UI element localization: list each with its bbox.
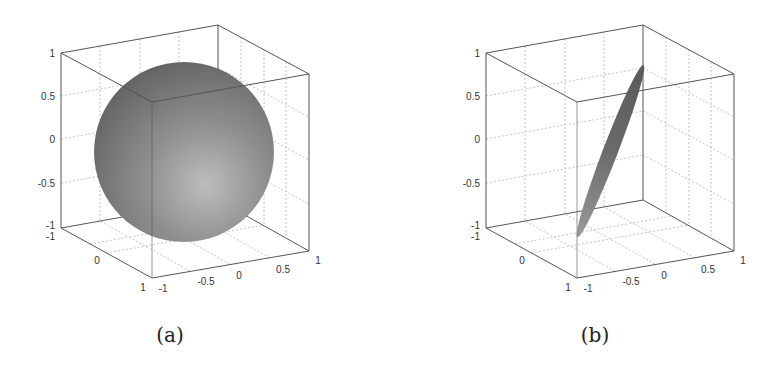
x-tick: 0.5 [701,264,715,275]
y-tick: 0 [94,255,100,266]
x-tick: 0.5 [276,264,290,275]
caption-b: (b) [581,323,609,347]
y-tick: 0 [519,255,525,266]
x-tick: 0 [661,270,667,281]
ellipsoid-surface [571,62,651,239]
z-tick: 1 [474,48,480,59]
y-tick: 1 [565,282,571,293]
y-axis-ticks: -1 0 1 [46,231,146,293]
z-axis-ticks: 1 0.5 0 -0.5 -1 [38,48,56,231]
x-tick: 1 [740,255,746,266]
sphere-surface [94,62,274,242]
z-tick: -1 [471,220,480,231]
y-tick: -1 [471,231,480,242]
z-tick: 0 [49,134,55,145]
x-tick: 0 [236,270,242,281]
figure: 1 0.5 0 -0.5 -1 -1 0 1 -1 -0.5 0 0.5 1 (… [0,0,778,374]
z-axis-ticks: 1 0.5 0 -0.5 -1 [463,48,481,231]
z-tick: 0 [474,134,480,145]
plot-b: 1 0.5 0 -0.5 -1 -1 0 1 -1 -0.5 0 0.5 1 [425,0,778,374]
panel-b: 1 0.5 0 -0.5 -1 -1 0 1 -1 -0.5 0 0.5 1 (… [425,0,778,374]
x-axis-ticks: -1 -0.5 0 0.5 1 [584,255,747,294]
x-tick: -0.5 [622,276,640,287]
x-tick: -1 [584,283,593,294]
z-tick: -0.5 [38,178,56,189]
z-tick: 1 [49,48,55,59]
x-tick: -1 [159,283,168,294]
caption-a: (a) [156,323,184,347]
z-tick: 0.5 [41,91,55,102]
z-tick: -1 [46,220,55,231]
z-tick: 0.5 [466,91,480,102]
x-tick: -0.5 [197,276,215,287]
x-axis-ticks: -1 -0.5 0 0.5 1 [159,255,322,294]
x-tick: 1 [315,255,321,266]
panel-a: 1 0.5 0 -0.5 -1 -1 0 1 -1 -0.5 0 0.5 1 (… [0,0,389,374]
y-tick: -1 [46,231,55,242]
z-tick: -0.5 [463,178,481,189]
plot-a: 1 0.5 0 -0.5 -1 -1 0 1 -1 -0.5 0 0.5 1 [0,0,389,374]
y-tick: 1 [140,282,146,293]
y-axis-ticks: -1 0 1 [471,231,571,293]
